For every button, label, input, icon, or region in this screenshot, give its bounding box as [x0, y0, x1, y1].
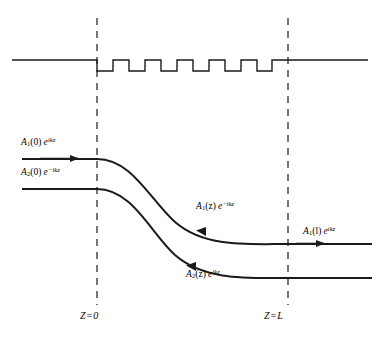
- axis-variable: Z: [264, 310, 270, 321]
- label-input-backward-amplitude: A2(0) e−ikz: [21, 167, 60, 178]
- physics-diagram-figure: A1(0) eikz A2(0) e−ikz A1(z) e−ikz A2(z)…: [0, 0, 378, 338]
- label-inner-upper-amplitude: A1(z) e−ikz: [196, 201, 234, 212]
- axis-label-zl: Z=L: [264, 311, 283, 321]
- amp-argument: (0): [30, 167, 41, 177]
- axis-value: L: [277, 310, 283, 321]
- label-output-forward-amplitude: A1(l) eikz: [303, 226, 335, 237]
- grating-corrugation: [12, 60, 368, 71]
- label-inner-lower-amplitude: A2(z) eikz: [186, 269, 220, 280]
- amp-argument: (z): [195, 269, 206, 279]
- amp-argument: (0): [30, 137, 41, 147]
- label-input-forward-amplitude: A1(0) eikz: [21, 137, 55, 148]
- exp-argument: ikz: [328, 225, 335, 232]
- exp-argument: ikz: [48, 136, 55, 143]
- amp-argument: (l): [312, 226, 321, 236]
- exp-argument: −ikz: [48, 166, 60, 173]
- axis-value: 0: [93, 310, 98, 321]
- axis-label-z0: Z=0: [80, 311, 98, 321]
- axis-variable: Z: [80, 310, 86, 321]
- amp-argument: (z): [205, 201, 216, 211]
- exp-argument: −ikz: [222, 200, 234, 207]
- exp-argument: ikz: [212, 268, 219, 275]
